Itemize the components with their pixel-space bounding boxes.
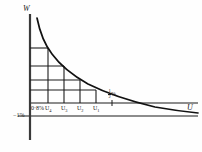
x-tick-sub-u1: 1 (97, 108, 99, 113)
staircase-vertical-lines (48, 48, 96, 103)
y-intercept-label: 0·8% (31, 105, 44, 111)
x-tick-label-u1: U1 (93, 105, 100, 114)
x-axis-label: U (187, 104, 193, 112)
x-tick-sub-u2: 2 (81, 108, 83, 113)
x-tick-label-u4: U4 (45, 105, 52, 114)
y-axis-label: W (23, 5, 30, 13)
graph-figure: W U 0·8% −1% U4 U3 U2 U1 1 2 % (0, 0, 202, 152)
decay-curve (37, 18, 198, 113)
x-tick-sub-u3: 3 (65, 108, 67, 113)
half-percent-label: 1 2 % (108, 89, 116, 99)
graph-canvas (0, 0, 202, 152)
x-tick-label-u2: U2 (77, 105, 84, 114)
x-tick-sub-u4: 4 (49, 108, 51, 113)
asymptote-label: −1% (13, 112, 24, 118)
x-tick-label-u3: U3 (61, 105, 68, 114)
percent-sign: % (111, 91, 116, 97)
